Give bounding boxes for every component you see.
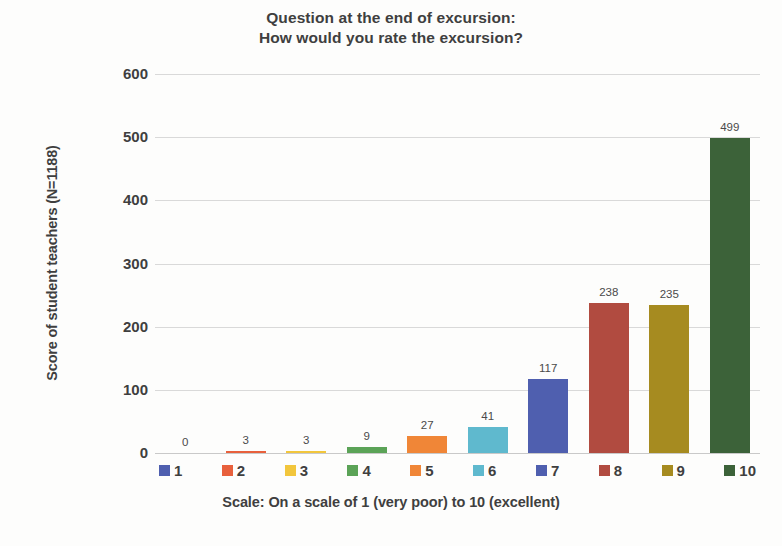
bar[interactable]	[710, 138, 750, 453]
bar[interactable]	[649, 305, 689, 453]
y-tick-label-0: 0	[60, 444, 148, 461]
legend-swatch-icon	[159, 465, 170, 476]
bar[interactable]	[589, 303, 629, 453]
bar-slot: 3	[226, 74, 266, 453]
legend-item-8[interactable]: 8	[599, 463, 622, 478]
y-tick-label-100: 100	[60, 381, 148, 398]
bar[interactable]	[286, 451, 326, 453]
y-tick-label-600: 600	[60, 65, 148, 82]
legend-label: 5	[425, 463, 433, 478]
bar[interactable]	[407, 436, 447, 453]
legend-swatch-icon	[222, 465, 233, 476]
legend-item-2[interactable]: 2	[222, 463, 245, 478]
y-tick-label-300: 300	[60, 255, 148, 272]
y-tick-label-200: 200	[60, 318, 148, 335]
plot-area: 03392741117238235499	[155, 74, 760, 453]
y-axis-title: Score of student teachers (N=1188)	[44, 63, 60, 463]
chart-title: Question at the end of excursion: How wo…	[0, 8, 782, 48]
y-tick-label-400: 400	[60, 191, 148, 208]
bar-slot: 3	[286, 74, 326, 453]
legend-item-4[interactable]: 4	[347, 463, 370, 478]
legend-label: 4	[362, 463, 370, 478]
bar-slot: 235	[649, 74, 689, 453]
chart-container: Question at the end of excursion: How wo…	[0, 0, 782, 546]
legend-swatch-icon	[473, 465, 484, 476]
bar-slot: 27	[407, 74, 447, 453]
bar-slot: 0	[165, 74, 205, 453]
bar[interactable]	[226, 451, 266, 453]
legend-label: 8	[614, 463, 622, 478]
bar[interactable]	[528, 379, 568, 453]
legend-item-6[interactable]: 6	[473, 463, 496, 478]
bar-value-label: 41	[452, 410, 524, 422]
legend-label: 9	[677, 463, 685, 478]
legend-label: 10	[739, 463, 756, 478]
legend-swatch-icon	[599, 465, 610, 476]
legend-item-7[interactable]: 7	[536, 463, 559, 478]
x-axis-title: Scale: On a scale of 1 (very poor) to 10…	[0, 494, 782, 510]
y-tick-label-500: 500	[60, 128, 148, 145]
chart-legend: 12345678910	[155, 458, 760, 482]
legend-swatch-icon	[347, 465, 358, 476]
chart-title-line-2: How would you rate the excursion?	[0, 28, 782, 48]
bar-series: 03392741117238235499	[155, 74, 760, 453]
legend-item-1[interactable]: 1	[159, 463, 182, 478]
chart-title-line-1: Question at the end of excursion:	[266, 9, 516, 26]
legend-item-3[interactable]: 3	[285, 463, 308, 478]
legend-label: 2	[237, 463, 245, 478]
bar-value-label: 235	[633, 288, 705, 300]
legend-swatch-icon	[724, 465, 735, 476]
legend-label: 7	[551, 463, 559, 478]
bar[interactable]	[468, 427, 508, 453]
gridline-0	[155, 453, 760, 454]
bar-value-label: 117	[512, 362, 584, 374]
legend-item-10[interactable]: 10	[724, 463, 756, 478]
legend-swatch-icon	[410, 465, 421, 476]
legend-item-5[interactable]: 5	[410, 463, 433, 478]
legend-label: 1	[174, 463, 182, 478]
bar-slot: 9	[347, 74, 387, 453]
bar-slot: 499	[710, 74, 750, 453]
bar[interactable]	[347, 447, 387, 453]
bar-value-label: 9	[331, 430, 403, 442]
bar-slot: 41	[468, 74, 508, 453]
bar-value-label: 499	[694, 121, 766, 133]
bar-slot: 117	[528, 74, 568, 453]
legend-swatch-icon	[285, 465, 296, 476]
legend-label: 6	[488, 463, 496, 478]
bar-slot: 238	[589, 74, 629, 453]
legend-label: 3	[300, 463, 308, 478]
legend-swatch-icon	[536, 465, 547, 476]
legend-item-9[interactable]: 9	[662, 463, 685, 478]
legend-swatch-icon	[662, 465, 673, 476]
